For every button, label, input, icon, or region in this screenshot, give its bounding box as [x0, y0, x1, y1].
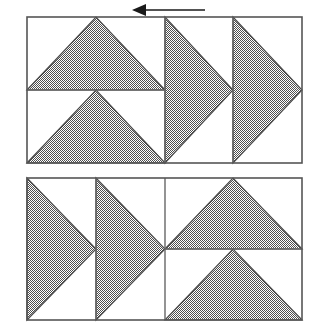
tessellation-figure — [0, 0, 318, 331]
figure-root — [0, 0, 318, 331]
